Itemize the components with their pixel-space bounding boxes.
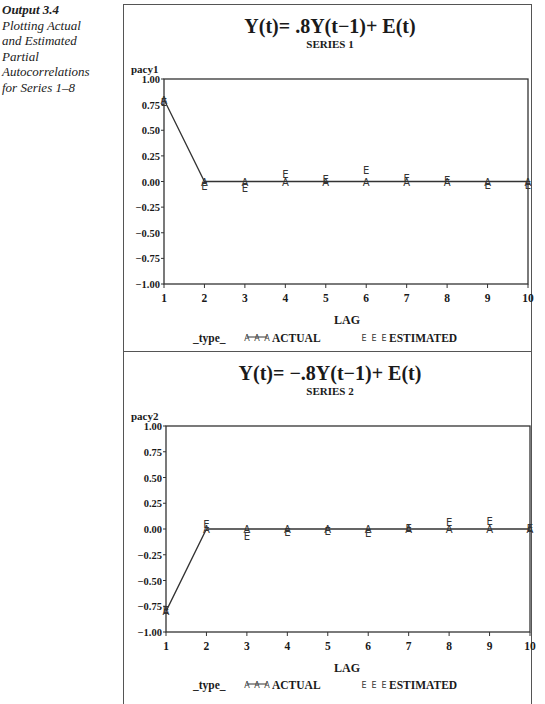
x-tick-label: 8 <box>446 640 452 652</box>
estimated-marker: E <box>446 517 452 528</box>
y-tick-label: −0.50 <box>138 576 162 587</box>
y-tick-label: −0.75 <box>138 601 162 612</box>
x-tick-label: 9 <box>487 640 493 652</box>
x-tick-label: 3 <box>244 640 250 652</box>
y-tick-label: 1.00 <box>144 421 162 432</box>
estimated-marker: E <box>203 519 209 530</box>
x-axis-label: LAG <box>334 661 360 675</box>
y-tick-label: 0.25 <box>144 498 162 509</box>
x-tick-label: 1 <box>163 640 169 652</box>
estimated-marker: E <box>486 516 492 527</box>
x-tick-label: 5 <box>325 640 331 652</box>
y-tick-label: −0.25 <box>138 550 162 561</box>
x-tick-label: 10 <box>524 640 536 652</box>
y-tick-label: 0.75 <box>144 447 162 458</box>
legend-actual-label: ACTUAL <box>272 679 321 691</box>
legend-estimated-symbol-icon: E <box>381 681 386 690</box>
estimated-marker: E <box>244 531 250 542</box>
estimated-marker: E <box>365 528 371 539</box>
legend-actual-symbol-icon: A <box>244 681 250 690</box>
chart-subtitle: SERIES 2 <box>306 385 354 397</box>
legend-estimated-symbol-icon: E <box>371 681 376 690</box>
legend-estimated-symbol-icon: E <box>361 681 366 690</box>
estimated-marker: E <box>527 523 533 534</box>
actual-series-line <box>166 529 530 611</box>
x-tick-label: 7 <box>406 640 412 652</box>
x-tick-label: 2 <box>204 640 210 652</box>
y-tick-label: 0.00 <box>144 524 162 535</box>
estimated-marker: E <box>163 605 169 616</box>
estimated-marker: E <box>325 526 331 537</box>
legend-actual-symbol-icon: A <box>264 681 270 690</box>
estimated-marker: E <box>284 527 290 538</box>
x-tick-label: 4 <box>284 640 290 652</box>
legend-estimated-label: ESTIMATED <box>389 679 457 691</box>
estimated-marker: E <box>406 523 412 534</box>
chart-title: Y(t)= −.8Y(t−1)+ E(t) <box>239 362 422 385</box>
legend-title: _type_ <box>192 679 226 692</box>
legend-actual-symbol-icon: A <box>254 681 260 690</box>
y-tick-label: −1.00 <box>138 627 162 638</box>
x-tick-label: 6 <box>365 640 371 652</box>
y-tick-label: 0.50 <box>144 473 162 484</box>
